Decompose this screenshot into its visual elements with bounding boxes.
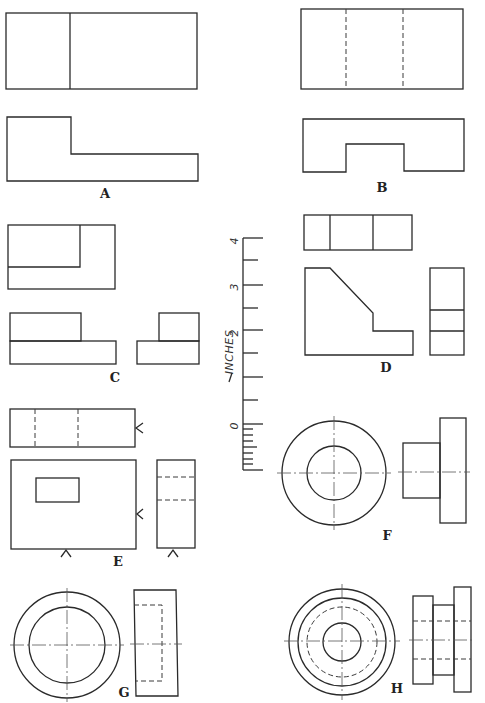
figure-a: A bbox=[6, 13, 198, 201]
figure-e-view-arrow-top bbox=[136, 423, 143, 433]
figure-g-label: G bbox=[118, 685, 129, 700]
figure-c: C bbox=[8, 225, 199, 385]
figure-b-top-view bbox=[301, 9, 463, 89]
figure-b-label: B bbox=[377, 180, 388, 195]
figure-g-end-view bbox=[10, 588, 124, 702]
figure-e-label: E bbox=[113, 554, 123, 569]
inch-scale: 4 3 2 0 INCHES bbox=[223, 238, 263, 471]
scale-title: INCHES bbox=[223, 330, 236, 374]
figure-c-front-view bbox=[10, 313, 116, 364]
figure-c-top-view bbox=[8, 225, 115, 289]
figure-f-side-view bbox=[398, 418, 470, 523]
figure-f: F bbox=[277, 416, 470, 543]
figure-f-label: F bbox=[382, 528, 392, 543]
figure-b-front-view bbox=[303, 119, 464, 172]
figure-e-view-arrow-side-bottom bbox=[168, 550, 178, 557]
figure-a-label: A bbox=[99, 186, 111, 201]
figure-h: H bbox=[284, 584, 475, 700]
scale-tick-3: 3 bbox=[228, 284, 241, 291]
orthographic-drawing-sheet: A B C bbox=[0, 0, 485, 703]
figure-a-front-view bbox=[7, 117, 198, 181]
figure-c-label: C bbox=[110, 370, 120, 385]
figure-h-label: H bbox=[391, 681, 403, 696]
figure-e-top-view bbox=[10, 409, 143, 447]
figure-d: D bbox=[304, 215, 464, 375]
figure-h-side-view bbox=[409, 587, 475, 692]
figure-c-side-view bbox=[137, 313, 199, 364]
figure-a-top-view bbox=[6, 13, 197, 89]
figure-h-end-view bbox=[284, 584, 400, 700]
figure-e-view-arrow-front-bottom bbox=[61, 550, 71, 557]
figure-d-side-view bbox=[430, 268, 464, 355]
figure-g: G bbox=[10, 588, 182, 702]
figure-d-top-view bbox=[304, 215, 412, 250]
figure-e-side-view bbox=[157, 460, 195, 557]
figure-g-side-view bbox=[130, 590, 182, 696]
figure-e-front-view bbox=[11, 460, 143, 557]
scale-tick-0: 0 bbox=[228, 423, 241, 430]
figure-b: B bbox=[301, 9, 464, 195]
figure-d-front-view bbox=[305, 268, 413, 355]
figure-e-view-arrow-front-right bbox=[137, 509, 143, 519]
figure-d-label: D bbox=[380, 360, 391, 375]
figure-f-end-view bbox=[277, 416, 391, 530]
figure-e: E bbox=[10, 409, 195, 569]
scale-tick-4: 4 bbox=[228, 238, 241, 245]
